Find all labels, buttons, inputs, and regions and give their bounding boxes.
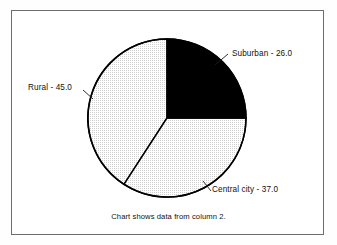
chart-caption: Chart shows data from column 2. [0,212,337,221]
pie-label-rural: Rural - 45.0 [28,83,72,92]
pie-chart-graphic [0,0,337,245]
pie-label-suburban: Suburban - 26.0 [232,49,292,58]
pie-label-central-city: Central city - 37.0 [212,185,278,194]
chart-page: Suburban - 26.0 Rural - 45.0 Central cit… [0,0,337,245]
